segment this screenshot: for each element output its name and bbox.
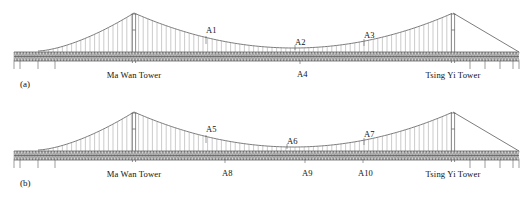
bridge-elevation-figure: A1A2A3A4Ma Wan TowerTsing Yi Tower(a) A5… xyxy=(0,0,530,198)
sensor-label-a2: A2 xyxy=(295,38,306,47)
panel-tag: (a) xyxy=(20,80,30,89)
left-side-span-cable xyxy=(38,13,134,51)
main-span-cable xyxy=(134,13,452,48)
hanger-group xyxy=(44,113,451,151)
sensor-label-a10: A10 xyxy=(358,169,373,178)
panel-tag: (b) xyxy=(20,179,31,188)
sensor-label-a9: A9 xyxy=(302,169,313,178)
deck-group xyxy=(14,151,519,160)
tower-label-tsing-yi: Tsing Yi Tower xyxy=(426,170,481,179)
sensor-label-a3: A3 xyxy=(364,31,375,40)
sensor-label-a8: A8 xyxy=(222,169,233,178)
sensor-label-a1: A1 xyxy=(206,26,217,35)
tower-label-ma-wan: Ma Wan Tower xyxy=(107,71,162,80)
left-side-span-cable xyxy=(38,112,134,150)
sensor-label-a5: A5 xyxy=(206,125,217,134)
sensor-label-a7: A7 xyxy=(364,130,375,139)
pier-group xyxy=(14,61,519,69)
right-backstay-cable xyxy=(453,112,519,151)
deck-group xyxy=(14,52,519,61)
panel-a: A1A2A3A4Ma Wan TowerTsing Yi Tower(a) xyxy=(0,0,530,99)
panel-b: A5A6A7A8A9A10Ma Wan TowerTsing Yi Tower(… xyxy=(0,99,530,198)
sensor-label-a6: A6 xyxy=(287,137,298,146)
sensor-label-a4: A4 xyxy=(297,70,308,79)
hanger-group xyxy=(44,14,451,52)
tower-label-tsing-yi: Tsing Yi Tower xyxy=(426,71,481,80)
right-backstay-cable xyxy=(453,13,519,52)
tower-label-ma-wan: Ma Wan Tower xyxy=(107,170,162,179)
pier-group xyxy=(14,160,519,168)
